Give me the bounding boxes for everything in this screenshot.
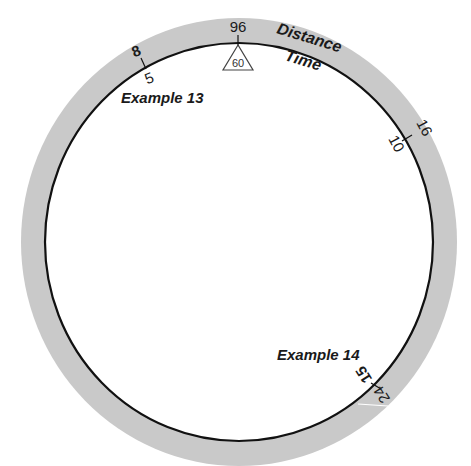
time-scale-disk [45,43,433,441]
example-13-label: Example 13 [121,89,204,106]
example-14-label: Example 14 [277,346,360,363]
index-outer-value: 96 [230,18,247,35]
index-triangle-value: 60 [232,57,244,69]
slide-rule-diagram: 96 60 Distance Time 8 5 Example 13 16 10… [0,0,471,466]
